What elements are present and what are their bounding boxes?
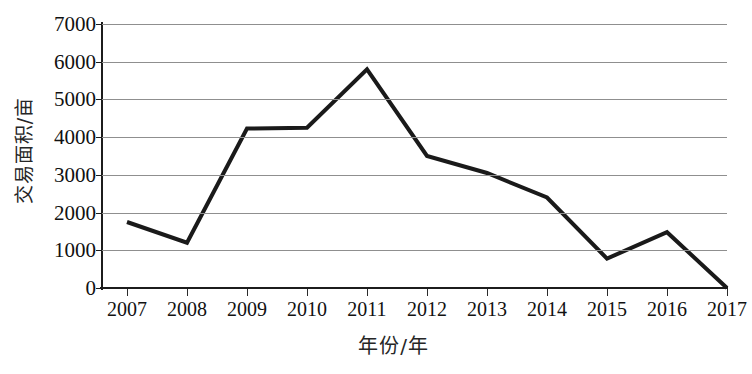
x-axis-title-text: 年份/年 — [318, 334, 429, 358]
y-tick-mark — [96, 250, 102, 251]
y-tick-mark — [96, 24, 102, 25]
x-tick-mark — [127, 289, 128, 296]
y-tick-mark — [96, 213, 102, 214]
x-tick-label: 2011 — [337, 299, 397, 319]
x-tick-label: 2010 — [277, 299, 337, 319]
x-tick-mark — [487, 289, 488, 296]
y-tick-label: 0 — [32, 278, 96, 299]
x-tick-label: 2014 — [517, 299, 577, 319]
x-tick-label: 2012 — [397, 299, 457, 319]
x-tick-label: 2016 — [637, 299, 697, 319]
x-tick-mark — [607, 289, 608, 296]
gridline — [101, 250, 727, 251]
x-axis-tick-labels: 2007200820092010201120122013201420152016… — [0, 299, 747, 327]
gridline — [101, 175, 727, 176]
x-axis-title: 年份/年 — [0, 330, 747, 359]
gridline — [101, 137, 727, 138]
gridline — [101, 99, 727, 100]
y-tick-mark — [96, 137, 102, 138]
x-tick-mark — [247, 289, 248, 296]
x-tick-label: 2008 — [157, 299, 217, 319]
x-tick-mark — [307, 289, 308, 296]
x-tick-mark — [427, 289, 428, 296]
y-tick-label: 1000 — [32, 240, 96, 261]
x-tick-label: 2013 — [457, 299, 517, 319]
x-tick-mark — [187, 289, 188, 296]
y-tick-label: 7000 — [32, 14, 96, 35]
y-tick-label: 5000 — [32, 89, 96, 110]
y-tick-label: 2000 — [32, 203, 96, 224]
y-tick-label: 6000 — [32, 52, 96, 73]
gridline — [101, 24, 727, 25]
y-tick-mark — [96, 288, 102, 289]
x-tick-label: 2017 — [697, 299, 752, 319]
x-tick-mark — [367, 289, 368, 296]
x-tick-label: 2015 — [577, 299, 637, 319]
x-tick-mark — [667, 289, 668, 296]
x-tick-mark — [547, 289, 548, 296]
y-tick-mark — [96, 99, 102, 100]
data-series-line — [101, 24, 727, 288]
gridline — [101, 213, 727, 214]
y-tick-label: 4000 — [32, 127, 96, 148]
x-tick-mark — [727, 289, 728, 296]
x-tick-label: 2009 — [217, 299, 277, 319]
x-tick-label: 2007 — [97, 299, 157, 319]
gridline — [101, 62, 727, 63]
y-tick-mark — [96, 62, 102, 63]
y-tick-label: 3000 — [32, 165, 96, 186]
series-polyline — [127, 69, 727, 288]
plot-area — [101, 24, 727, 288]
y-tick-mark — [96, 175, 102, 176]
